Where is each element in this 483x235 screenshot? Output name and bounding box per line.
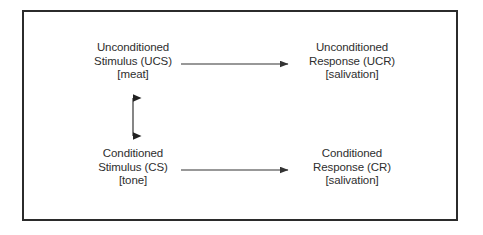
node-ucr-line-1: Unconditioned: [277, 41, 427, 55]
node-conditioned-stimulus: Conditioned Stimulus (CS) [tone]: [58, 147, 208, 188]
node-cr-line-2: Response (CR): [277, 161, 427, 175]
node-unconditioned-stimulus: Unconditioned Stimulus (UCS) [meat]: [58, 41, 208, 82]
node-cr-line-1: Conditioned: [277, 147, 427, 161]
node-cs-line-1: Conditioned: [58, 147, 208, 161]
diagram-canvas: Unconditioned Stimulus (UCS) [meat] Unco…: [0, 0, 483, 235]
node-ucs-line-3: [meat]: [58, 68, 208, 82]
node-cr-line-3: [salivation]: [277, 174, 427, 188]
node-cs-line-2: Stimulus (CS): [58, 161, 208, 175]
node-ucr-line-3: [salivation]: [277, 68, 427, 82]
node-unconditioned-response: Unconditioned Response (UCR) [salivation…: [277, 41, 427, 82]
node-ucs-line-2: Stimulus (UCS): [58, 55, 208, 69]
node-ucs-line-1: Unconditioned: [58, 41, 208, 55]
node-cs-line-3: [tone]: [58, 174, 208, 188]
node-ucr-line-2: Response (UCR): [277, 55, 427, 69]
node-conditioned-response: Conditioned Response (CR) [salivation]: [277, 147, 427, 188]
